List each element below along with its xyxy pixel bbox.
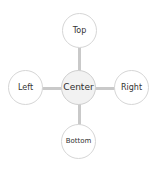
connector-bottom (78, 104, 81, 126)
node-left[interactable]: Left (8, 70, 43, 105)
node-center-label: Center (63, 83, 93, 92)
node-bottom[interactable]: Bottom (61, 124, 96, 159)
node-left-label: Left (18, 84, 33, 92)
node-top[interactable]: Top (62, 13, 97, 48)
node-right-label: Right (121, 84, 142, 92)
node-center[interactable]: Center (61, 70, 96, 105)
connector-right (95, 87, 116, 90)
connector-left (42, 87, 63, 90)
node-right[interactable]: Right (114, 70, 149, 105)
node-bottom-label: Bottom (66, 138, 92, 145)
node-top-label: Top (73, 27, 87, 35)
hub-diagram: Top Left Center Right Bottom (0, 0, 163, 174)
connector-top (78, 48, 81, 72)
